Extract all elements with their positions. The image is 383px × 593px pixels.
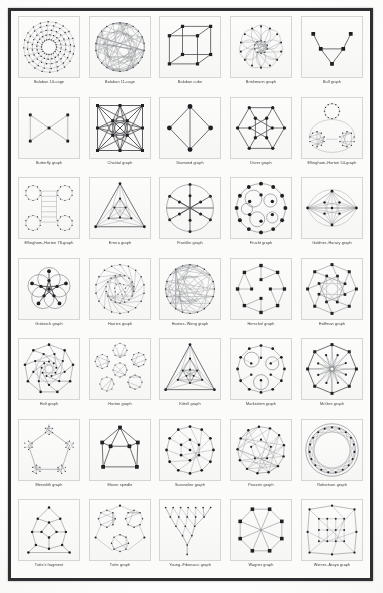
figure-caption: Markström graph: [227, 402, 296, 406]
graph-diagram-goldner: [301, 177, 363, 239]
graph-diagram-durer: [230, 97, 292, 159]
figure-caption: Errera graph: [86, 241, 155, 245]
figure-item[interactable]: Grötzsch graph: [15, 256, 84, 336]
figure-caption: Holt graph: [15, 402, 84, 406]
figure-item[interactable]: Harries–Wong graph: [156, 256, 225, 336]
figure-item[interactable]: Poussin graph: [227, 417, 296, 497]
figure-item[interactable]: Hoffman graph: [297, 256, 366, 336]
graph-diagram-franklin: [159, 177, 221, 239]
figure-item[interactable]: Robertson graph: [297, 417, 366, 497]
graph-diagram-petal-rosette: [230, 16, 292, 78]
graph-diagram-grotzsch: [18, 258, 80, 320]
figure-caption: Balaban cube: [156, 80, 225, 84]
figure-item[interactable]: Chvátal graph: [86, 95, 155, 175]
figure-item[interactable]: Young–Fibonacci graph: [156, 497, 225, 577]
figure-caption: Wagner graph: [227, 563, 296, 567]
figure-item[interactable]: Balaban 11-cage: [86, 14, 155, 94]
graph-diagram-diamond: [159, 97, 221, 159]
figure-caption: Robertson graph: [297, 483, 366, 487]
graph-diagram-tutte: [89, 499, 151, 561]
graph-diagram-mcgee: [301, 338, 363, 400]
figure-caption: Poussin graph: [227, 483, 296, 487]
graph-diagram-poussin: [230, 419, 292, 481]
figure-caption: Wiener–Araya graph: [297, 563, 366, 567]
figure-item[interactable]: Diamond graph: [156, 95, 225, 175]
figure-caption: Grötzsch graph: [15, 322, 84, 326]
figure-item[interactable]: Harries graph: [86, 256, 155, 336]
figure-caption: Balaban 10-cage: [15, 80, 84, 84]
figure-caption: Herschel graph: [227, 322, 296, 326]
figure-item[interactable]: Horton graph: [86, 336, 155, 416]
figure-item[interactable]: Herschel graph: [227, 256, 296, 336]
scanned-page: Balaban 10-cageBalaban 11-cageBalaban cu…: [0, 0, 383, 593]
graph-diagram-young-fibonacci: [159, 499, 221, 561]
figure-item[interactable]: McGee graph: [297, 336, 366, 416]
figure-caption: Harries graph: [86, 322, 155, 326]
figure-item[interactable]: Balaban 10-cage: [15, 14, 84, 94]
figure-caption: Meredith graph: [15, 483, 84, 487]
graph-diagram-sousselier: [159, 419, 221, 481]
figure-item[interactable]: Sousselier graph: [156, 417, 225, 497]
figure-caption: Sousselier graph: [156, 483, 225, 487]
figure-grid: Balaban 10-cageBalaban 11-cageBalaban cu…: [15, 14, 366, 577]
graph-diagram-wagner: [230, 499, 292, 561]
figure-item[interactable]: Ellingham–Horton 54-graph: [297, 95, 366, 175]
figure-item[interactable]: Ellingham–Horton 78-graph: [15, 175, 84, 255]
figure-caption: Hoffman graph: [297, 322, 366, 326]
figure-item[interactable]: Balaban cube: [156, 14, 225, 94]
figure-item[interactable]: Brinkmann graph: [227, 14, 296, 94]
figure-item[interactable]: Goldner–Harary graph: [297, 175, 366, 255]
figure-caption: Tutte graph: [86, 563, 155, 567]
figure-caption: Butterfly graph: [15, 160, 84, 164]
figure-item[interactable]: Wagner graph: [227, 497, 296, 577]
graph-diagram-frucht: [230, 177, 292, 239]
figure-caption: Tutte's fragment: [15, 563, 84, 567]
graph-diagram-kittell: [159, 338, 221, 400]
graph-diagram-moser: [89, 419, 151, 481]
figure-item[interactable]: Moser spindle: [86, 417, 155, 497]
figure-item[interactable]: Frucht graph: [227, 175, 296, 255]
graph-diagram-markstrom: [230, 338, 292, 400]
figure-caption: Diamond graph: [156, 160, 225, 164]
graph-diagram-bull: [301, 16, 363, 78]
figure-item[interactable]: Butterfly graph: [15, 95, 84, 175]
graph-diagram-robertson: [301, 419, 363, 481]
graph-diagram-holt: [18, 338, 80, 400]
graph-diagram-butterfly: [18, 97, 80, 159]
graph-diagram-wiener-araya: [301, 499, 363, 561]
figure-caption: Harries–Wong graph: [156, 322, 225, 326]
graph-diagram-harries-wong: [159, 258, 221, 320]
figure-caption: Franklin graph: [156, 241, 225, 245]
figure-item[interactable]: Meredith graph: [15, 417, 84, 497]
figure-item[interactable]: Holt graph: [15, 336, 84, 416]
figure-caption: Moser spindle: [86, 483, 155, 487]
figure-item[interactable]: Franklin graph: [156, 175, 225, 255]
figure-item[interactable]: Markström graph: [227, 336, 296, 416]
graph-diagram-hoffman: [301, 258, 363, 320]
graph-diagram-eh78: [18, 177, 80, 239]
figure-item[interactable]: Bull graph: [297, 14, 366, 94]
graph-diagram-harries: [89, 258, 151, 320]
figure-caption: Balaban 11-cage: [86, 80, 155, 84]
figure-frame: Balaban 10-cageBalaban 11-cageBalaban cu…: [8, 8, 373, 581]
figure-caption: Brinkmann graph: [227, 80, 296, 84]
figure-item[interactable]: Tutte graph: [86, 497, 155, 577]
figure-item[interactable]: Tutte's fragment: [15, 497, 84, 577]
graph-diagram-tutte-fragment: [18, 499, 80, 561]
figure-caption: McGee graph: [297, 402, 366, 406]
graph-diagram-eh54: [301, 97, 363, 159]
figure-item[interactable]: Wiener–Araya graph: [297, 497, 366, 577]
graph-diagram-cube: [159, 16, 221, 78]
graph-diagram-dense-disc: [89, 16, 151, 78]
figure-caption: Goldner–Harary graph: [297, 241, 366, 245]
figure-caption: Ellingham–Horton 78-graph: [15, 241, 84, 245]
figure-caption: Dürer graph: [227, 160, 296, 164]
graph-diagram-chvatal: [89, 97, 151, 159]
figure-item[interactable]: Dürer graph: [227, 95, 296, 175]
figure-caption: Young–Fibonacci graph: [156, 563, 225, 567]
graph-diagram-horton: [89, 338, 151, 400]
figure-caption: Kittell graph: [156, 402, 225, 406]
figure-caption: Bull graph: [297, 80, 366, 84]
figure-item[interactable]: Errera graph: [86, 175, 155, 255]
figure-item[interactable]: Kittell graph: [156, 336, 225, 416]
